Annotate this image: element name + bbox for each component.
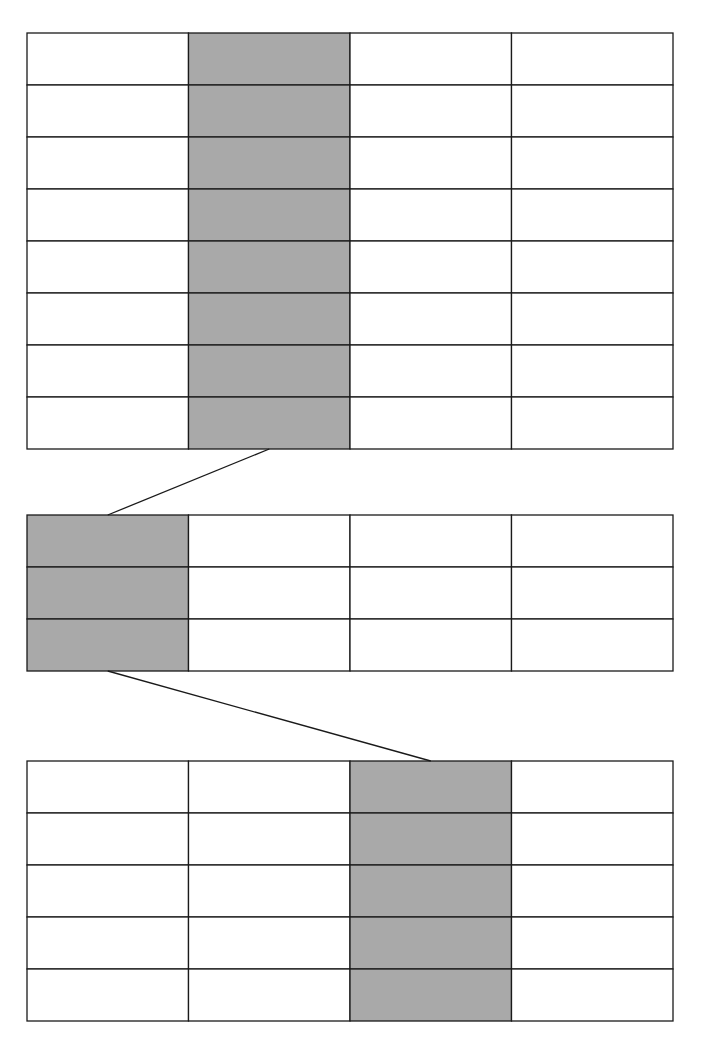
grid-cell [189,515,351,567]
connector-top-to-middle [108,449,270,515]
grid-cell [350,189,512,241]
grid-cell [350,33,512,85]
grid-cell [27,189,189,241]
grid-cell [27,397,189,449]
grid-cell [350,241,512,293]
grid-cell [350,567,512,619]
grid-cell [189,619,351,671]
shaded-cell [189,293,351,345]
shaded-cell [350,969,512,1021]
grid-cell [27,865,189,917]
grid-cell [350,619,512,671]
shaded-cell [189,241,351,293]
grid-cell [512,85,674,137]
grid-cell [27,917,189,969]
grid-cell [27,813,189,865]
shaded-cell [189,33,351,85]
grid-bottom [27,761,673,1021]
grid-cell [350,397,512,449]
grid-cell [350,85,512,137]
grids-layer [27,33,673,1021]
grid-cell [350,345,512,397]
grid-cell [27,137,189,189]
shaded-cell [189,85,351,137]
shaded-cell [350,917,512,969]
grid-cell [512,189,674,241]
shaded-cell [189,397,351,449]
grid-middle [27,515,673,671]
grid-cell [189,917,351,969]
grid-cell [512,813,674,865]
grid-cell [189,969,351,1021]
grid-cell [512,345,674,397]
grid-top [27,33,673,449]
shaded-cell [27,515,189,567]
grid-cell [27,33,189,85]
grid-cell [27,241,189,293]
shaded-cell [189,189,351,241]
grid-cell [189,761,351,813]
grid-cell [189,865,351,917]
grid-cell [350,293,512,345]
grid-cell [350,515,512,567]
shaded-cell [27,619,189,671]
grid-cell [27,85,189,137]
grid-cell [512,619,674,671]
shaded-cell [27,567,189,619]
grid-cell [27,761,189,813]
grid-cell [512,397,674,449]
grid-cell [512,969,674,1021]
shaded-cell [350,813,512,865]
shaded-cell [189,137,351,189]
grid-cell [512,241,674,293]
grid-cell [512,137,674,189]
connector-middle-to-bottom [108,671,431,761]
shaded-cell [350,761,512,813]
grid-mapping-diagram [0,0,705,1050]
grid-cell [27,345,189,397]
grid-cell [27,969,189,1021]
grid-cell [512,515,674,567]
grid-cell [512,917,674,969]
shaded-cell [189,345,351,397]
grid-cell [512,865,674,917]
grid-cell [189,567,351,619]
grid-cell [189,813,351,865]
grid-cell [512,293,674,345]
grid-cell [512,761,674,813]
shaded-cell [350,865,512,917]
grid-cell [512,567,674,619]
grid-cell [350,137,512,189]
grid-cell [512,33,674,85]
grid-cell [27,293,189,345]
